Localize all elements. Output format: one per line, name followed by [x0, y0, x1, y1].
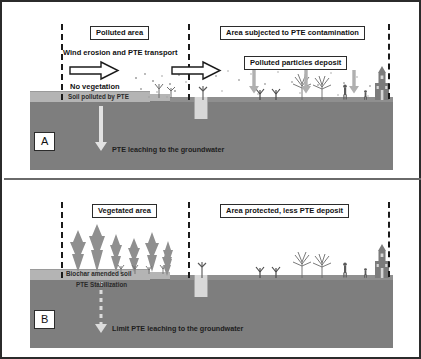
subsoil-layer-b — [30, 278, 393, 348]
wind-arrow-2-icon — [171, 61, 221, 80]
panel-a-wind-label: Wind erosion and PTE transport — [63, 48, 178, 57]
panel-b-tag: B — [34, 310, 55, 329]
panel-b-soil-label-2: PTE Stabilization — [76, 281, 127, 288]
panel-a: Polluted area Wind erosion and PTE trans… — [4, 4, 419, 178]
panel-a-deposit-label: Polluted particles deposit — [244, 56, 347, 70]
panel-b-scene: Vegetated area Area protected, less PTE … — [4, 182, 419, 357]
boundary-dash-left-a — [61, 24, 63, 100]
conifer-tree-icon — [156, 248, 180, 276]
subsoil-layer-a — [30, 100, 393, 170]
panel-b-leaching-label: Limit PTE leaching to the groundwater — [112, 324, 243, 333]
deposit-arrow-2-icon — [300, 70, 312, 94]
panel-a-novegetation-label: No vegetation — [70, 82, 120, 91]
shrub-icon — [255, 262, 289, 278]
well-icon — [194, 275, 208, 297]
leaching-arrow-b-icon — [94, 282, 108, 334]
deposit-arrow-1-icon — [248, 70, 260, 94]
bare-tree-icon — [310, 74, 334, 100]
panel-a-title-left: Polluted area — [90, 26, 149, 40]
shrub-icon — [255, 84, 289, 100]
panel-a-title-right: Area subjected to PTE contamination — [220, 26, 365, 40]
panel-b-title-left: Vegetated area — [92, 204, 157, 218]
figure-root: Polluted area Wind erosion and PTE trans… — [0, 0, 421, 359]
panel-a-scene: Polluted area Wind erosion and PTE trans… — [4, 4, 419, 178]
boundary-dash-left-b — [61, 202, 63, 278]
wind-arrow-1-icon — [69, 61, 119, 80]
panel-a-leaching-label: PTE leaching to the groundwater — [112, 145, 224, 154]
bare-tree-icon — [310, 252, 334, 278]
panel-a-tag: A — [34, 132, 55, 151]
person-icon — [341, 262, 349, 278]
panel-divider — [4, 178, 421, 180]
boundary-dash-right-a — [388, 24, 390, 99]
well-icon — [194, 97, 208, 119]
leaching-arrow-a-icon — [94, 106, 108, 152]
boundary-dash-middle-b — [188, 202, 190, 278]
deposit-arrow-3-icon — [348, 70, 360, 94]
boundary-dash-right-b — [388, 202, 390, 277]
person-icon — [362, 90, 369, 100]
panel-b-title-right: Area protected, less PTE deposit — [220, 204, 349, 218]
panel-b: Vegetated area Area protected, less PTE … — [4, 182, 419, 357]
panel-b-soil-label-1: Biochar amended soil — [66, 270, 131, 277]
person-icon — [362, 268, 369, 278]
panel-a-soil-label: Soil polluted by PTE — [68, 93, 129, 100]
shrub-icon — [197, 82, 211, 100]
shrub-icon — [196, 258, 210, 278]
